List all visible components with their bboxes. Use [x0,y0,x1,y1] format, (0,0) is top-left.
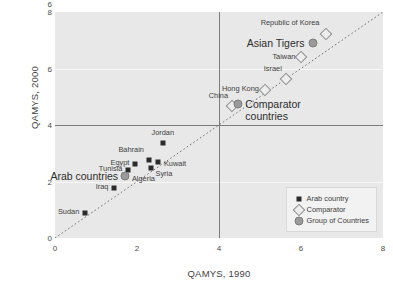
legend-label: Group of Countries [307,216,369,225]
data-label-algeria: Algeria [132,175,155,184]
data-label-kuwait: Kuwait [164,160,186,169]
data-point-asian-tigers[interactable] [308,39,317,48]
y-tick-label: 0 [30,234,52,243]
x-tick-label: 4 [207,244,231,253]
x-tick-label: 8 [371,244,393,253]
data-label-china: China [209,92,228,101]
filled-circle-icon [293,215,305,226]
data-label-asian-tigers: Asian Tigers [247,37,305,49]
open-diamond-icon [293,204,305,215]
x-tick-label: 0 [43,244,67,253]
data-point-kuwait[interactable] [155,160,160,165]
data-point-republic-of-korea[interactable] [320,28,333,41]
data-label-israel: Israel [264,65,282,74]
data-point-syria[interactable] [148,166,153,171]
x-tick-label: 6 [289,244,313,253]
legend-item-arab-country: Arab country [293,193,369,204]
reference-line-horizontal-y4 [55,125,383,126]
y-axis-title: QAMYS, 2000 [29,18,40,178]
data-point-iraq[interactable] [112,186,117,191]
data-label-jordan: Jordan [151,128,174,137]
legend-label: Comparator [307,205,346,214]
y-tick-label: 8 [30,8,52,17]
data-label-sudan: Sudan [58,208,79,217]
data-label-taiwan: Taiwan [272,52,295,61]
data-point-bahrain[interactable] [146,157,151,162]
legend-item-comparator: Comparator [293,204,369,215]
data-label-republic-of-korea: Republic of Korea [261,19,320,28]
data-point-sudan[interactable] [83,211,88,216]
data-point-comparator-countries[interactable] [234,100,243,109]
data-point-hong-kong[interactable] [259,84,272,97]
y-tick-label: 6 [30,0,52,9]
x-axis-title: QAMYS, 1990 [55,268,383,279]
x-tick-label: 2 [125,244,149,253]
data-label-comparator-countries: Comparatorcountries [245,98,300,122]
data-point-israel[interactable] [279,73,292,86]
data-point-jordan[interactable] [160,140,165,145]
legend-item-group-of-countries: Group of Countries [293,215,369,226]
data-label-syria: Syria [156,170,173,179]
data-label-arab-countries: Arab countries [50,170,118,182]
data-point-egypt[interactable] [133,162,138,167]
y-tick-label: 6 [30,65,52,74]
data-point-taiwan[interactable] [295,50,308,63]
data-label-iraq: Iraq [96,183,109,192]
data-label-bahrain: Bahrain [118,145,143,154]
chart-legend: Arab country Comparator Group of Countri… [286,187,377,232]
scatter-plot-figure: QAMYS, 2000 QAMYS, 1990 8 6 6 4 2 0 0 2 … [0,0,393,290]
legend-label: Arab country [307,194,349,203]
plot-area: JordanBahrainKuwaitEgyptSyriaTunisiaAlge… [55,12,383,238]
data-point-arab-countries[interactable] [121,172,130,181]
y-tick-label: 4 [30,121,52,130]
y-tick-label: 2 [30,178,52,187]
